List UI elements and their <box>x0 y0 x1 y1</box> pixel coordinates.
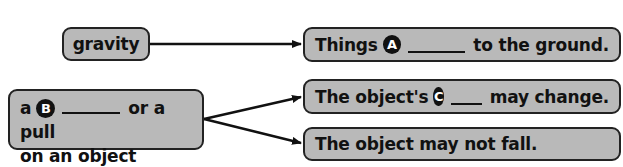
arrow-b-to-d <box>204 119 301 143</box>
effect-c-prefix: The object's <box>315 86 428 108</box>
gravity-label: gravity <box>73 33 140 55</box>
arrow-b-to-c <box>204 97 301 119</box>
blank-b-input[interactable] <box>62 98 120 114</box>
effect-a-prefix: Things <box>315 34 378 56</box>
effect-a-suffix: to the ground. <box>473 34 609 56</box>
effect-c-box: The object's C may change. <box>303 79 621 114</box>
blank-c-input[interactable] <box>451 89 482 105</box>
cause-b-line2: on an object <box>20 144 192 167</box>
effect-d-label: The object may not fall. <box>315 133 537 155</box>
effect-c-suffix: may change. <box>490 86 609 108</box>
effect-d-box: The object may not fall. <box>303 127 621 161</box>
cause-b-prefix: a <box>20 98 31 118</box>
gravity-box: gravity <box>62 27 150 61</box>
cause-b-box: aBor a pull on an object <box>8 89 204 150</box>
badge-c-icon: C <box>433 87 443 106</box>
blank-a-input[interactable] <box>408 37 465 53</box>
badge-a-icon: A <box>383 35 402 54</box>
cause-b-line1: aBor a pull <box>20 96 192 144</box>
badge-b-icon: B <box>36 99 55 118</box>
effect-a-box: Things A to the ground. <box>303 27 621 62</box>
